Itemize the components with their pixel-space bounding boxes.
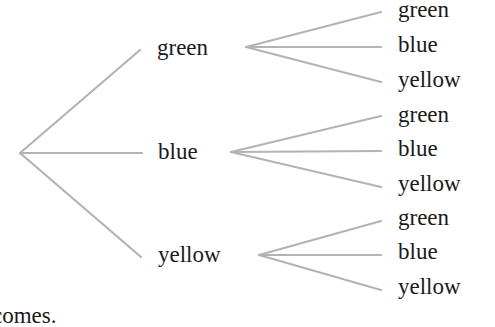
level1-node-green: green: [157, 36, 208, 59]
leaf-blue-blue: blue: [398, 137, 438, 160]
leaf-green-green: green: [398, 0, 449, 21]
caption-fragment: comes.: [0, 304, 57, 327]
leaf-blue-yellow: yellow: [398, 172, 461, 195]
leaf-yellow-blue: blue: [398, 240, 438, 263]
leaf-yellow-green: green: [398, 206, 449, 229]
leaf-yellow-yellow: yellow: [398, 275, 461, 298]
level1-node-yellow: yellow: [158, 243, 221, 266]
leaf-green-yellow: yellow: [398, 68, 461, 91]
leaf-blue-green: green: [398, 103, 449, 126]
leaf-green-blue: blue: [398, 33, 438, 56]
level1-node-blue: blue: [158, 140, 198, 163]
